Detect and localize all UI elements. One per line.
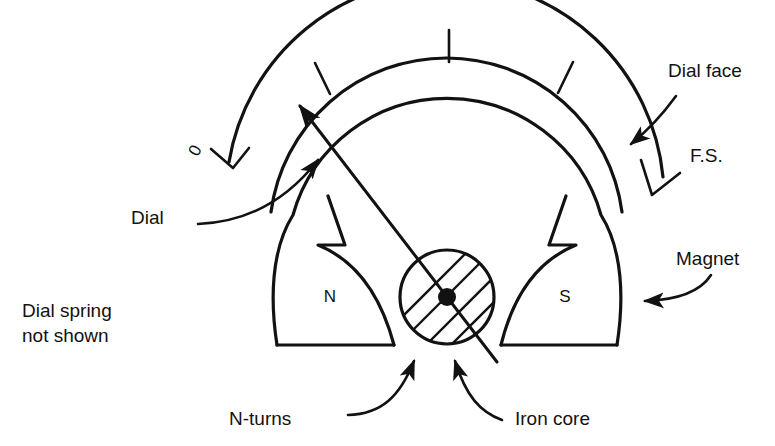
- dial-label: Dial: [131, 207, 164, 228]
- dial-face-label: Dial face: [668, 60, 742, 81]
- magnet-body: N S: [273, 98, 621, 345]
- n-turns-leader-arrow: [348, 361, 414, 415]
- annotation-magnet: Magnet: [645, 248, 740, 301]
- dial-face-leader-arrow: [631, 96, 676, 144]
- magnet-right-pole-face: [501, 196, 576, 345]
- annotation-full-scale: F.S.: [690, 145, 723, 166]
- iron-core-label: Iron core: [515, 408, 590, 429]
- meter-movement-diagram: N S Dial face F.S.: [0, 0, 775, 446]
- note-dial-spring: Dial spring not shown: [22, 300, 112, 346]
- full-scale-label: F.S.: [690, 145, 723, 166]
- pole-label-north: N: [324, 287, 336, 306]
- annotation-zero: 0: [184, 142, 205, 159]
- scale-tick-1: [315, 63, 330, 94]
- iron-core-leader-arrow: [455, 361, 502, 420]
- pole-label-south: S: [559, 287, 570, 306]
- magnet-leader-arrow: [645, 275, 711, 301]
- dial-face-outer-arc: [229, 0, 663, 177]
- diagram-canvas: N S Dial face F.S.: [0, 0, 775, 446]
- annotation-n-turns: N-turns: [229, 361, 414, 429]
- annotation-iron-core: Iron core: [455, 361, 590, 429]
- zero-label: 0: [184, 142, 205, 159]
- magnet-outer-outline: [273, 98, 621, 345]
- note-line-1: Dial spring: [22, 300, 112, 321]
- needle-group: [300, 106, 497, 362]
- n-turns-label: N-turns: [229, 408, 291, 429]
- note-line-2: not shown: [22, 325, 109, 346]
- scale-tick-3: [558, 62, 573, 93]
- needle-pointer: [300, 106, 497, 362]
- annotation-dial-face: Dial face: [631, 60, 742, 144]
- magnet-label: Magnet: [676, 248, 740, 269]
- magnet-left-pole-face: [318, 196, 394, 345]
